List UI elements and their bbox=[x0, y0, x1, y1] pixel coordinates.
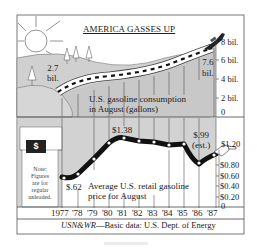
price-label: Average U.S. retail gasoline price for A… bbox=[88, 181, 189, 201]
top-tick-0: 0 bbox=[221, 107, 225, 117]
faint-caption bbox=[104, 242, 148, 245]
x-label-85: '85 bbox=[177, 208, 187, 218]
unleaded-note: Note: Figures are for regular unleaded. bbox=[24, 166, 56, 201]
consumption-end-value: 7.6 bil. bbox=[202, 57, 214, 79]
dollar-icon: $ bbox=[26, 140, 46, 153]
bottom-tick-0: 0 bbox=[221, 201, 225, 211]
top-tick-4: 4 bil. bbox=[221, 74, 238, 84]
x-label-84: '84 bbox=[162, 208, 172, 218]
top-tick-8: 8 bil. bbox=[221, 37, 238, 47]
x-label-83: '83 bbox=[147, 208, 157, 218]
x-label-82: '82 bbox=[132, 208, 142, 218]
source-credit: USN&WR—Basic data: U.S. Dept. of Energy bbox=[61, 220, 216, 230]
bottom-tick-040: $0.40 bbox=[220, 181, 239, 191]
x-label-1977: 1977 bbox=[51, 208, 69, 218]
x-label-78: '78 bbox=[72, 208, 82, 218]
bottom-tick-080: $0.80 bbox=[220, 160, 239, 170]
x-label-79: '79 bbox=[87, 208, 97, 218]
price-end-value: $.99 (est.) bbox=[192, 130, 210, 150]
bottom-tick-120: $1.20 bbox=[221, 139, 240, 149]
price-start-value: $.62 bbox=[66, 182, 82, 192]
chart-title: AMERICA GASSES UP bbox=[83, 24, 175, 34]
top-tick-6: 6 bil. bbox=[221, 55, 238, 65]
x-label-86: '86 bbox=[192, 208, 202, 218]
consumption-start-value: 2.7 bil. bbox=[47, 63, 59, 83]
x-label-81: '81 bbox=[117, 208, 127, 218]
top-tick-2: 2 bil. bbox=[221, 93, 238, 103]
x-label-80: '80 bbox=[102, 208, 112, 218]
price-peak-value: $1.38 bbox=[112, 125, 132, 135]
bottom-tick-060: $0.60 bbox=[220, 171, 239, 181]
x-label-87: '87 bbox=[207, 208, 217, 218]
consumption-label: U.S. gasoline consumption in August (gal… bbox=[89, 94, 186, 114]
